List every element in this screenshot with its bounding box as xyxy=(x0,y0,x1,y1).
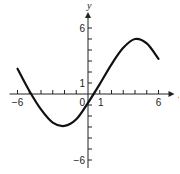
axes xyxy=(10,12,175,168)
y-tick-label: −6 xyxy=(74,155,86,166)
y-axis-arrow-icon xyxy=(85,12,91,18)
x-axis-arrow-icon xyxy=(169,91,175,97)
function-graph: −601661−6 x y xyxy=(0,0,179,174)
x-tick-label: 6 xyxy=(156,97,162,108)
x-axis-label: x xyxy=(178,89,180,100)
x-tick-label: −6 xyxy=(12,97,24,108)
y-tick-label: 1 xyxy=(79,78,85,89)
y-axis-label: y xyxy=(86,0,92,11)
y-tick-label: 6 xyxy=(79,23,85,34)
x-tick-label: 1 xyxy=(98,97,104,108)
